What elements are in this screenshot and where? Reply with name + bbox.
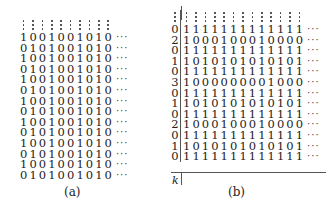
dot xyxy=(223,16,225,18)
horizontal-ellipsis-icon: ··· xyxy=(116,138,129,149)
matrix-cell: 1 xyxy=(285,151,294,162)
matrix-cell: 1 xyxy=(75,170,84,181)
matrix-b-axis-top xyxy=(181,6,182,20)
matrix-a: 1001001010···0101001010···1001001010···0… xyxy=(19,18,128,180)
dot xyxy=(42,20,44,22)
matrix-cell: 1 xyxy=(28,170,37,181)
dot xyxy=(79,20,81,22)
caption-a: (a) xyxy=(64,185,81,199)
dot xyxy=(223,12,225,14)
matrix-cell: 1 xyxy=(229,151,238,162)
dot xyxy=(195,16,197,18)
dot xyxy=(174,16,176,18)
horizontal-ellipsis-icon: ··· xyxy=(116,170,129,181)
dot xyxy=(70,20,72,22)
dot xyxy=(107,24,109,26)
matrix-cell: 1 xyxy=(191,151,200,162)
matrix-b-row: 01111111111111··· xyxy=(170,151,320,162)
dot xyxy=(60,24,62,26)
dot xyxy=(186,16,188,18)
matrix-cell: 1 xyxy=(94,170,103,181)
matrix-cell: 1 xyxy=(201,151,210,162)
matrix-cell: 1 xyxy=(210,151,219,162)
horizontal-ellipsis-icon: ··· xyxy=(307,151,320,162)
dot xyxy=(60,20,62,22)
dot xyxy=(32,24,34,26)
dot xyxy=(280,16,282,18)
dot xyxy=(299,12,301,14)
matrix-cell: 0 xyxy=(104,170,113,181)
matrix-cell: 1 xyxy=(257,151,266,162)
matrix-cell: 1 xyxy=(220,151,229,162)
dot xyxy=(214,12,216,14)
matrix-cell: 1 xyxy=(182,151,191,162)
dot xyxy=(98,20,100,22)
matrix-b-baseline xyxy=(171,172,326,173)
dot xyxy=(299,16,301,18)
horizontal-ellipsis-icon: ··· xyxy=(307,130,320,141)
dot xyxy=(214,16,216,18)
dot xyxy=(186,12,188,14)
matrix-b: 01111111111111···21000100010000···011111… xyxy=(170,10,320,162)
dot xyxy=(252,16,254,18)
dot xyxy=(289,16,291,18)
dot xyxy=(233,16,235,18)
k-value-label: 0 xyxy=(170,151,181,162)
horizontal-ellipsis-icon: ··· xyxy=(116,32,129,43)
dot xyxy=(252,12,254,14)
matrix-cell: 0 xyxy=(66,170,75,181)
dot xyxy=(70,24,72,26)
matrix-cell: 1 xyxy=(267,151,276,162)
dot xyxy=(205,16,207,18)
dot xyxy=(205,12,207,14)
dot xyxy=(89,24,91,26)
matrix-cell: 1 xyxy=(248,151,257,162)
dot xyxy=(242,16,244,18)
horizontal-ellipsis-icon: ··· xyxy=(307,77,320,88)
dot xyxy=(261,12,263,14)
dot xyxy=(51,20,53,22)
dot xyxy=(79,24,81,26)
matrix-cell: 0 xyxy=(57,170,66,181)
dot xyxy=(32,20,34,22)
dot xyxy=(23,24,25,26)
dot xyxy=(174,12,176,14)
dot xyxy=(89,20,91,22)
matrix-b-axis-bottom xyxy=(181,173,182,185)
dot xyxy=(289,12,291,14)
matrix-cell: 0 xyxy=(19,170,28,181)
matrix-cell: 1 xyxy=(238,151,247,162)
horizontal-ellipsis-icon: ··· xyxy=(116,85,129,96)
dot xyxy=(98,24,100,26)
dot xyxy=(51,24,53,26)
matrix-a-row: 0101001010··· xyxy=(19,170,128,181)
dot xyxy=(195,12,197,14)
dot xyxy=(280,12,282,14)
caption-b: (b) xyxy=(228,185,245,199)
matrix-cell: 1 xyxy=(295,151,304,162)
matrix-cell: 0 xyxy=(85,170,94,181)
dot xyxy=(42,24,44,26)
k-axis-label: k xyxy=(172,174,179,187)
matrix-cell: 1 xyxy=(47,170,56,181)
dot xyxy=(23,20,25,22)
dot xyxy=(107,20,109,22)
dot xyxy=(261,16,263,18)
horizontal-ellipsis-icon: ··· xyxy=(307,24,320,35)
dot xyxy=(270,12,272,14)
dot xyxy=(242,12,244,14)
matrix-cell: 1 xyxy=(276,151,285,162)
matrix-cell: 0 xyxy=(38,170,47,181)
dot xyxy=(233,12,235,14)
dot xyxy=(270,16,272,18)
